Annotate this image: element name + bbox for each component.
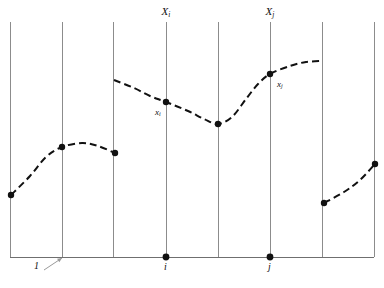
leader-arrowhead bbox=[57, 258, 62, 262]
label-X-sub-j: Xj bbox=[266, 6, 275, 18]
data-point-segment-2-2 bbox=[215, 121, 221, 127]
label-subscript: i bbox=[159, 111, 161, 117]
label-X-sub-i: Xi bbox=[162, 6, 171, 18]
curve-segment-3 bbox=[324, 164, 375, 203]
figure-container: Xi Xj xi xj i j 1 bbox=[0, 0, 384, 288]
callout-leader-line bbox=[44, 258, 62, 270]
baseline-point-j bbox=[267, 254, 274, 261]
baseline-point-i bbox=[163, 254, 170, 261]
vertical-grid-lines bbox=[11, 22, 375, 257]
data-point-segment-1-1 bbox=[8, 192, 14, 198]
label-subscript: j bbox=[281, 83, 283, 89]
diagram-canvas bbox=[0, 0, 384, 288]
data-point-segment-3-2 bbox=[372, 161, 378, 167]
label-x-sub-j: xj bbox=[277, 80, 283, 89]
label-axis-1: 1 bbox=[34, 261, 39, 271]
data-point-segment-2-3 bbox=[267, 71, 273, 77]
label-x-sub-i: xi bbox=[155, 108, 161, 117]
data-point-segment-1-3 bbox=[112, 150, 118, 156]
data-point-segment-1-2 bbox=[59, 144, 65, 150]
data-point-segment-3-1 bbox=[321, 200, 327, 206]
label-subscript: i bbox=[168, 10, 170, 19]
label-base: X bbox=[266, 5, 273, 17]
data-point-segment-2-1 bbox=[163, 99, 169, 105]
label-base: X bbox=[162, 5, 169, 17]
label-axis-j: j bbox=[268, 262, 271, 272]
dashed-curve-segments bbox=[11, 61, 375, 203]
label-subscript: j bbox=[272, 10, 274, 19]
label-axis-i: i bbox=[164, 262, 167, 272]
